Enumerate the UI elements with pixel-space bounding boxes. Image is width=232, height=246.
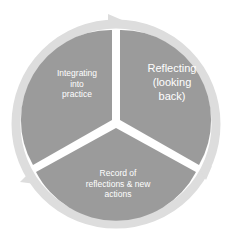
label-line: into xyxy=(42,79,112,90)
label-line: (looking xyxy=(140,76,204,90)
segment-label-record: Record of reflections & new actions xyxy=(70,168,166,200)
label-line: back) xyxy=(140,90,204,104)
segment-label-integrating: Integrating into practice xyxy=(42,68,112,100)
label-line: practice xyxy=(42,89,112,100)
label-line: Reflecting xyxy=(140,62,204,76)
label-line: reflections & new xyxy=(70,179,166,190)
label-line: Record of xyxy=(70,168,166,179)
segment-label-reflecting: Reflecting (looking back) xyxy=(140,62,204,103)
label-line: actions xyxy=(70,189,166,200)
label-line: Integrating xyxy=(42,68,112,79)
cycle-diagram xyxy=(0,0,232,246)
